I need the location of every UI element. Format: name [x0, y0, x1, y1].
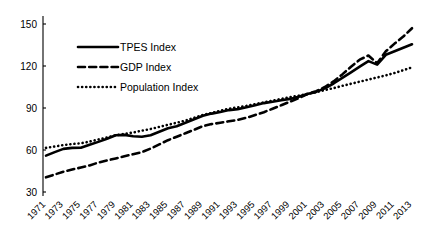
legend-label: GDP Index [120, 61, 172, 73]
series-line-population-index [46, 67, 412, 147]
x-tick-label: 1987 [164, 199, 187, 222]
x-tick-label: 2007 [338, 199, 361, 222]
y-axis: 150120906030 [20, 16, 46, 198]
x-tick-label: 1981 [112, 199, 135, 222]
x-tick-label: 2011 [374, 199, 396, 221]
x-axis: 1971197319751977197919811983198519871989… [25, 199, 414, 222]
x-tick-label: 2013 [391, 199, 414, 222]
x-tick-label: 1971 [25, 199, 48, 222]
x-tick-label: 1991 [199, 199, 222, 222]
chart-legend: TPES IndexGDP IndexPopulation Index [78, 41, 199, 93]
x-tick-label: 1979 [94, 199, 117, 222]
series-line-gdp-index [46, 28, 412, 177]
y-tick-label: 90 [26, 103, 38, 114]
x-tick-label: 1985 [147, 199, 170, 222]
x-tick-label: 1983 [129, 199, 152, 222]
x-tick-label: 1999 [269, 199, 292, 222]
x-tick-label: 1997 [251, 199, 274, 222]
legend-label: Population Index [120, 81, 199, 93]
x-tick-label: 1993 [216, 199, 239, 222]
x-tick-label: 2001 [286, 199, 309, 222]
line-chart: 150120906030 197119731975197719791981198… [0, 0, 433, 236]
x-tick-label: 1977 [77, 199, 100, 222]
x-tick-label: 1995 [234, 199, 257, 222]
x-tick-label: 2009 [356, 199, 379, 222]
x-tick-label: 2003 [304, 199, 327, 222]
x-tick-label: 1989 [182, 199, 205, 222]
x-tick-label: 2005 [321, 199, 344, 222]
x-tick-label: 1975 [60, 199, 83, 222]
y-tick-label: 30 [26, 187, 38, 198]
y-tick-label: 150 [20, 19, 37, 30]
y-tick-label: 120 [20, 61, 37, 72]
chart-container: 150120906030 197119731975197719791981198… [0, 0, 433, 236]
x-tick-label: 1973 [42, 199, 65, 222]
data-series-group [46, 28, 412, 177]
y-tick-label: 60 [26, 145, 38, 156]
legend-label: TPES Index [120, 41, 177, 53]
